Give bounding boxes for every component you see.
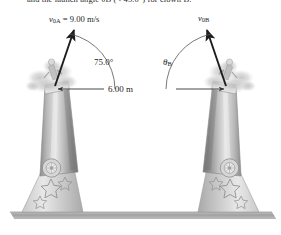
- label-separation-distance: 6.00 m: [108, 84, 133, 94]
- label-velocity-a: v0A = 9.00 m/s: [49, 14, 99, 24]
- label-velocity-a-equals: =: [61, 14, 70, 24]
- label-velocity-b: v0B: [198, 13, 209, 23]
- figure-canvas: [0, 0, 281, 235]
- label-velocity-a-subscript: 0A: [53, 17, 61, 24]
- label-velocity-b-subscript: 0B: [202, 16, 209, 23]
- wheel-medallion-right: [220, 159, 238, 177]
- label-velocity-a-value: 9.00 m/s: [70, 14, 100, 24]
- physics-figure: and the launch angle θB (< 45.0°) for cl…: [0, 0, 281, 235]
- ground: [10, 212, 276, 219]
- cannon-right: [166, 30, 259, 212]
- label-angle-b-subscript: B: [167, 60, 171, 67]
- wheel-medallion-left: [42, 159, 60, 177]
- label-angle-a: 75.0°: [94, 57, 113, 67]
- label-angle-b: θB: [163, 57, 172, 67]
